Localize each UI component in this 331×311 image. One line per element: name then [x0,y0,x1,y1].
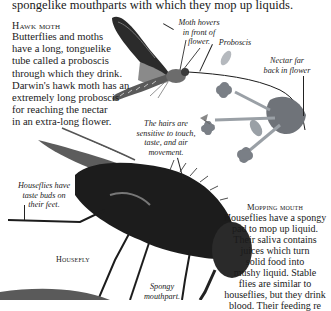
caption-taste-buds: Houseflies have taste buds on their feet… [14,181,74,210]
body-line: mushy liquid. Stable [215,267,331,278]
caption-line: Houseflies have [14,181,74,191]
caption-line: back in flower [262,66,312,76]
intro-text: spongelike mouthparts with which they mo… [12,0,293,13]
body-line: Darwin's hawk moth has an [12,80,132,92]
caption-proboscis: Proboscis [210,38,260,48]
caption-line: Nectar far [262,56,312,66]
body-line: have a long, tonguelike [12,43,132,55]
caption-line: their feet. [14,200,74,210]
caption-line: Proboscis [210,38,260,48]
caption-line: taste buds on [14,191,74,201]
body-line: pad to mop up liquid. [215,223,331,234]
caption-spongy: Spongy mouthpart. [140,282,184,301]
leader-line [303,76,304,116]
body-line: for reaching the nectar [12,104,132,116]
caption-line: mouthpart. [140,292,184,302]
caption-line: Spongy [140,282,184,292]
mopping-mouth-heading: Mopping mouth [215,202,331,212]
caption-line: Moth hovers [170,18,228,28]
body-line: solid food into [215,256,331,267]
hawk-moth-section: Hawk moth Butterflies and moths have a l… [12,20,132,129]
body-line: in an extra-long flower. [12,116,132,128]
caption-line: in front of [170,28,228,38]
body-line: houseflies, but they drink [215,289,331,300]
body-line: Houseflies have a spongy [215,212,331,223]
caption-line: taste, and air [124,138,208,148]
caption-hairs: The hairs are sensitive to touch, taste,… [124,119,208,157]
body-line: Butterflies and moths [12,31,132,43]
body-line: juices which turn [215,245,331,256]
leader-line [24,205,25,220]
caption-line: movement. [124,148,208,158]
caption-line: sensitive to touch, [124,129,208,139]
body-line: tube called a proboscis [12,55,132,67]
mopping-mouth-section: Mopping mouth Houseflies have a spongy p… [215,202,331,311]
body-line: blood. Their feeding re [215,300,331,311]
caption-line: The hairs are [124,119,208,129]
housefly-label: Housefly [56,255,90,264]
body-line: through which they drink. [12,68,132,80]
hawk-moth-body: Butterflies and moths have a long, tongu… [12,31,132,129]
hawk-moth-heading: Hawk moth [12,20,132,31]
body-line: flies are similar to [215,278,331,289]
body-line: extremely long proboscis [12,92,132,104]
mopping-mouth-body: Houseflies have a spongy pad to mop up l… [215,212,331,311]
body-line: Their saliva contains [215,234,331,245]
caption-nectar: Nectar far back in flower [262,56,312,75]
